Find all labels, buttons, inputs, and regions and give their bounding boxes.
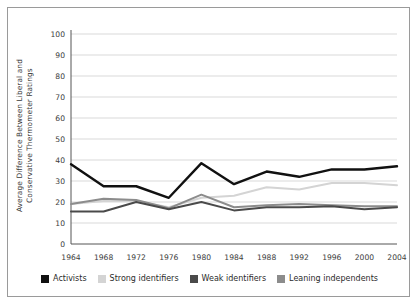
legend-swatch-strong-identifiers [98,275,106,283]
axis-lines [71,30,397,244]
legend-item-activists[interactable]: Activists [41,274,87,283]
legend-label-leaning-independents: Leaning independents [289,274,378,283]
plot-area: Average Difference Between Liberal and C… [8,8,411,298]
legend-label-activists: Activists [53,274,87,283]
chart-legend: ActivistsStrong identifiersWeak identifi… [8,274,411,283]
data-series-lines [71,163,397,211]
gridlines [71,34,397,223]
series-line-activists [71,163,397,198]
legend-swatch-activists [41,275,49,283]
legend-item-strong-identifiers[interactable]: Strong identifiers [98,274,179,283]
legend-swatch-leaning-independents [277,275,285,283]
chart-canvas [8,8,411,298]
legend-item-weak-identifiers[interactable]: Weak identifiers [190,274,267,283]
legend-swatch-weak-identifiers [190,275,198,283]
chart-figure: Average Difference Between Liberal and C… [7,7,410,297]
legend-item-leaning-independents[interactable]: Leaning independents [277,274,378,283]
legend-label-weak-identifiers: Weak identifiers [202,274,267,283]
legend-label-strong-identifiers: Strong identifiers [110,274,179,283]
